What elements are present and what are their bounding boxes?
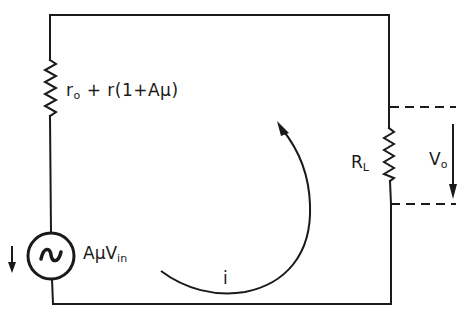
loop-current-label: i (223, 268, 228, 288)
circuit-diagram (0, 0, 467, 318)
left-wire-upper (50, 116, 51, 233)
series-resistor-icon (45, 60, 56, 116)
source-voltage-label: AμVin (83, 243, 127, 265)
right-wire-lower (390, 181, 391, 204)
series-resistance-label: ro + r(1+Aμ) (66, 80, 179, 102)
load-resistor-icon (384, 128, 394, 181)
output-voltage-arrow-down-icon (449, 124, 457, 199)
source-arrow-down-icon (8, 246, 16, 273)
loop-current-arrow-icon (161, 121, 310, 293)
load-resistor-label: RL (351, 152, 369, 174)
ac-voltage-source-icon (28, 233, 74, 279)
output-voltage-label: Vo (429, 149, 447, 171)
